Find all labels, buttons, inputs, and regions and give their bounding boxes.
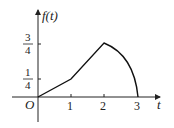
x-tick-label-3: 3 [134,99,140,113]
x-tick-label-1: 1 [67,99,73,113]
function-curve [38,43,138,97]
origin-label: O [25,97,35,112]
y-axis-label: f(t) [42,8,58,23]
x-tick-label-2: 2 [100,99,106,113]
y-tick-label-den-1q: 4 [25,79,31,91]
y-tick-label-den-3q: 4 [25,44,31,56]
x-axis-label: t [157,97,161,112]
y-tick-label-num-3q: 3 [25,31,31,43]
function-graph: f(t) t O 1 2 3 3 4 1 4 [0,0,174,128]
y-tick-label-num-1q: 1 [25,66,31,78]
